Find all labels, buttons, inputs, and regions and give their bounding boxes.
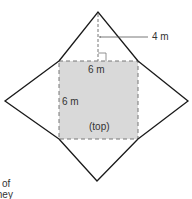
slant-height-label: 4 m [152,32,169,42]
base-height-label: 6 m [62,97,79,107]
left-triangle [5,61,59,139]
leader-dot [99,36,101,38]
base-width-label: 6 m [88,65,105,75]
cutoff-text-1: of [2,179,10,189]
bottom-triangle [59,139,138,181]
face-label: (top) [89,122,110,132]
cutoff-text-2: they [0,190,13,199]
pyramid-net [0,0,192,199]
right-triangle [138,61,188,139]
right-angle-mark [98,53,106,61]
